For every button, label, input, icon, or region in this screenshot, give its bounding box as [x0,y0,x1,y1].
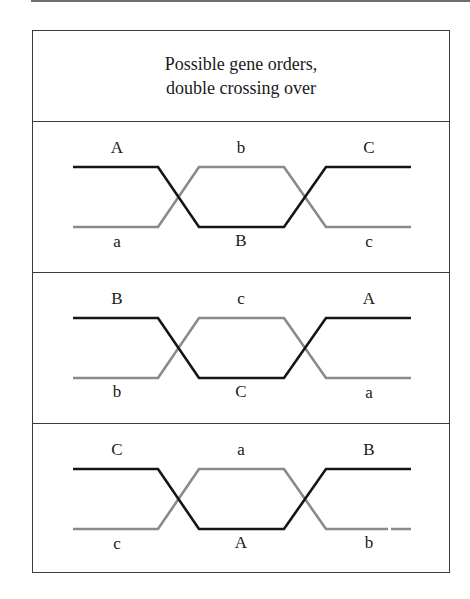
label-bottom-right: a [365,384,373,402]
label-bottom-right: b [365,534,374,552]
label-top-mid: c [237,290,245,308]
label-top-left: C [111,441,122,459]
title-cell: Possible gene orders, double crossing ov… [33,31,449,122]
label-bottom-mid: C [235,383,246,401]
dark-chromatid [73,318,411,378]
label-top-left: B [111,290,122,308]
label-top-right: C [363,139,374,157]
panel-2: B c A b C a [33,273,449,424]
top-rule [31,0,470,2]
dark-chromatid [73,167,411,227]
gene-order-table: Possible gene orders, double crossing ov… [32,30,450,573]
label-top-left: A [111,139,123,157]
panel-1: A b C a B c [33,122,449,273]
light-chromatid [73,167,411,227]
label-top-mid: a [237,441,245,459]
light-chromatid [73,469,411,529]
label-top-mid: b [237,139,246,157]
title-line-1: Possible gene orders, [165,52,317,76]
light-chromatid [73,318,411,378]
dark-chromatid [73,469,411,529]
label-top-right: B [363,441,374,459]
label-bottom-left: c [113,535,121,553]
title-line-2: double crossing over [166,76,316,100]
line-gap-artifact [388,527,391,531]
label-bottom-mid: B [235,232,246,250]
label-bottom-mid: A [235,534,247,552]
label-bottom-left: a [113,233,121,251]
label-bottom-left: b [113,383,122,401]
label-bottom-right: c [365,233,373,251]
label-top-right: A [363,290,375,308]
panel-3: C a B c A b [33,424,449,572]
